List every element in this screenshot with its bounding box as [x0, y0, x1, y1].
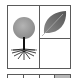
- icon-grid-panel: [7, 5, 71, 69]
- row2-cell-2[interactable]: [24, 75, 40, 78]
- row2-cell-4-shaded[interactable]: [55, 75, 70, 78]
- row2-cell-1[interactable]: [8, 75, 24, 78]
- tree-icon: [9, 16, 39, 62]
- card-stage: [0, 0, 74, 78]
- empty-cell[interactable]: [40, 39, 70, 68]
- tree-cell[interactable]: [8, 6, 40, 68]
- leaf-icon: [41, 8, 69, 37]
- row2-cell-3[interactable]: [40, 75, 56, 78]
- leaf-cell[interactable]: [40, 6, 70, 39]
- second-row-grid: [7, 74, 71, 78]
